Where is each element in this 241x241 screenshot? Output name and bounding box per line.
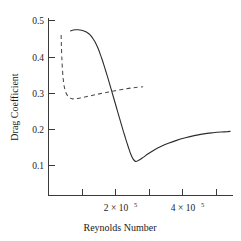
y-tick-marks <box>49 21 56 166</box>
y-tick-label-2: 0.3 <box>32 89 44 99</box>
x-tick-label-2e5-exponent: 5 <box>134 201 137 208</box>
y-tick-label-3: 0.2 <box>32 125 44 135</box>
y-axis-title: Drag Coefficient <box>9 73 20 141</box>
x-tick-label-4e5: 4 × 10 5 <box>171 201 204 214</box>
solid-curve-path <box>71 30 231 162</box>
y-tick-label-4: 0.1 <box>32 161 44 171</box>
x-tick-label-2e5: 2 × 10 5 <box>104 201 137 214</box>
x-tick-label-4e5-exponent: 5 <box>201 201 204 208</box>
chart-figure: 0.5 0.4 0.3 0.2 0.1 2 × 10 5 4 × 10 5 Re… <box>0 0 241 241</box>
dashed-curve-path <box>61 35 143 99</box>
x-tick-label-2e5-base: 2 × 10 <box>104 203 129 213</box>
y-tick-label-0: 0.5 <box>32 16 44 26</box>
y-tick-label-1: 0.4 <box>32 53 44 63</box>
x-tick-label-4e5-base: 4 × 10 <box>171 203 196 213</box>
chart-canvas: 0.5 0.4 0.3 0.2 0.1 2 × 10 5 4 × 10 5 Re… <box>0 0 241 241</box>
x-tick-marks <box>49 189 217 196</box>
x-axis-title: Reynolds Number <box>83 222 157 233</box>
